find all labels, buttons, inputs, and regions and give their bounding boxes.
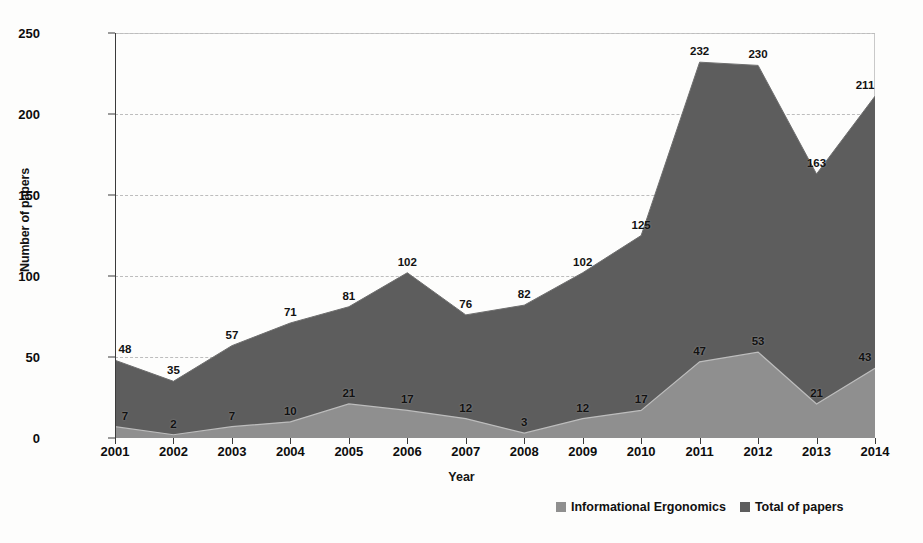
- x-tick-mark: [232, 438, 233, 444]
- x-tick-label: 2001: [101, 444, 130, 459]
- y-tick-label: 250: [0, 26, 40, 41]
- data-point-label: 43: [859, 351, 872, 363]
- x-tick-label: 2010: [627, 444, 656, 459]
- x-tick-mark: [817, 438, 818, 444]
- x-tick-mark: [524, 438, 525, 444]
- data-point-label: 102: [573, 256, 592, 268]
- y-tick-mark: [108, 357, 115, 358]
- data-point-label: 163: [807, 157, 826, 169]
- x-tick-mark: [758, 438, 759, 444]
- y-tick-label: 50: [0, 350, 40, 365]
- y-tick-mark: [108, 114, 115, 115]
- legend-item[interactable]: Informational Ergonomics: [556, 500, 726, 514]
- data-point-label: 7: [229, 410, 235, 422]
- y-tick-label: 100: [0, 269, 40, 284]
- y-tick-mark: [108, 195, 115, 196]
- data-point-label: 21: [810, 387, 823, 399]
- legend-item[interactable]: Total of papers: [740, 500, 844, 514]
- legend-label: Informational Ergonomics: [571, 500, 726, 514]
- data-point-label: 57: [226, 329, 239, 341]
- y-axis-line: [115, 33, 116, 438]
- x-tick-label: 2012: [744, 444, 773, 459]
- x-tick-label: 2005: [334, 444, 363, 459]
- data-point-label: 2: [170, 418, 176, 430]
- data-point-label: 12: [459, 402, 472, 414]
- data-point-label: 48: [119, 343, 132, 355]
- data-point-label: 17: [635, 393, 648, 405]
- legend-label: Total of papers: [755, 500, 844, 514]
- x-tick-label: 2007: [451, 444, 480, 459]
- x-tick-label: 2003: [217, 444, 246, 459]
- data-point-label: 232: [690, 45, 709, 57]
- data-point-label: 12: [576, 402, 589, 414]
- x-tick-label: 2008: [510, 444, 539, 459]
- x-tick-label: 2002: [159, 444, 188, 459]
- y-tick-mark: [108, 276, 115, 277]
- data-point-label: 76: [459, 298, 472, 310]
- y-tick-mark: [108, 438, 115, 439]
- data-point-label: 125: [632, 219, 651, 231]
- data-point-label: 230: [748, 48, 767, 60]
- x-tick-mark: [583, 438, 584, 444]
- legend-swatch-icon: [556, 502, 566, 512]
- y-tick-label: 0: [0, 431, 40, 446]
- data-point-label: 81: [342, 290, 355, 302]
- y-axis-title-text: Number of papers: [18, 168, 32, 272]
- x-tick-mark: [290, 438, 291, 444]
- y-tick-label: 200: [0, 107, 40, 122]
- x-tick-mark: [115, 438, 116, 444]
- x-tick-mark: [700, 438, 701, 444]
- data-point-label: 82: [518, 288, 531, 300]
- x-tick-label: 2004: [276, 444, 305, 459]
- data-point-label: 21: [342, 387, 355, 399]
- x-tick-mark: [407, 438, 408, 444]
- data-point-label: 71: [284, 306, 297, 318]
- plot-area: 4835577181102768210212523223016321172710…: [115, 33, 875, 438]
- data-point-label: 3: [521, 416, 527, 428]
- data-point-label: 17: [401, 393, 414, 405]
- x-tick-mark: [641, 438, 642, 444]
- data-point-label: 102: [398, 256, 417, 268]
- x-tick-label: 2014: [861, 444, 890, 459]
- y-tick-mark: [108, 33, 115, 34]
- x-tick-mark: [173, 438, 174, 444]
- x-tick-mark: [349, 438, 350, 444]
- legend-swatch-icon: [740, 502, 750, 512]
- x-tick-label: 2013: [802, 444, 831, 459]
- x-tick-label: 2011: [686, 444, 714, 459]
- area-chart: Number of papers 050100150200250 4835577…: [0, 0, 923, 543]
- data-point-label: 211: [856, 79, 875, 91]
- data-point-label: 47: [693, 345, 706, 357]
- area-series-svg: [115, 33, 875, 438]
- data-point-label: 35: [167, 364, 180, 376]
- x-axis-title: Year: [0, 470, 923, 484]
- x-tick-mark: [466, 438, 467, 444]
- data-point-label: 10: [284, 405, 297, 417]
- y-tick-label: 150: [0, 188, 40, 203]
- chart-legend: Informational ErgonomicsTotal of papers: [556, 500, 844, 514]
- data-point-label: 7: [122, 410, 128, 422]
- x-tick-label: 2009: [568, 444, 597, 459]
- data-point-label: 53: [752, 335, 765, 347]
- y-axis-title: Number of papers: [8, 0, 42, 440]
- x-tick-mark: [875, 438, 876, 444]
- x-tick-label: 2006: [393, 444, 422, 459]
